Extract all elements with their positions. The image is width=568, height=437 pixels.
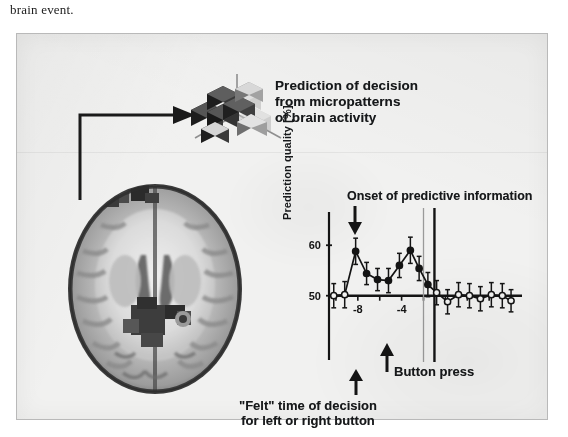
page-body-text: brain event. [10,2,74,18]
felt-time-arrow-up-icon [348,369,364,395]
prediction-quality-chart: Prediction quality [%] 5060-8-4 [285,206,530,366]
prediction-annotation-line-3: of brain activity [275,110,418,126]
chart-y-axis-label: Prediction quality [%] [281,105,293,220]
chart-data-point [488,292,494,298]
chart-data-point [416,265,422,271]
prediction-annotation-line-2: from micropatterns [275,94,418,110]
chart-data-point [342,292,348,298]
chart-data-point [385,277,391,283]
onset-annotation: Onset of predictive information [347,189,532,204]
chart-data-point [374,276,380,282]
felt-time-annotation-line-1: "Felt" time of decision [213,398,403,413]
chart-data-point [353,248,359,254]
felt-time-annotation-line-2: for left or right button [213,413,403,428]
chart-y-tick-label: 60 [309,239,321,251]
chart-data-point [396,262,402,268]
chart-data-point [508,298,514,304]
chart-data-point [499,293,505,299]
connector-arrow [75,92,205,204]
figure-panel: Prediction of decision from micropattern… [16,33,548,420]
chart-series-line [334,250,511,301]
chart-data-point [407,247,413,253]
chart-data-point [363,270,369,276]
button-press-annotation: Button press [394,364,474,379]
chart-plot-area: 5060-8-4 [285,206,530,366]
chart-data-point [477,296,483,302]
chart-data-point [455,292,461,298]
felt-time-annotation: "Felt" time of decision for left or righ… [213,398,403,429]
prediction-annotation: Prediction of decision from micropattern… [275,78,418,126]
chart-data-point [434,290,440,296]
chart-y-tick-label: 50 [309,290,321,302]
chart-x-tick-label: -4 [397,303,408,315]
voxel-cube-icon [189,72,285,156]
chart-data-point [331,293,337,299]
prediction-annotation-line-1: Prediction of decision [275,78,418,94]
brain-slice-image [45,177,265,399]
chart-data-point [425,282,431,288]
chart-data-point [466,293,472,299]
chart-data-point [444,299,450,305]
chart-x-tick-label: -8 [353,303,363,315]
